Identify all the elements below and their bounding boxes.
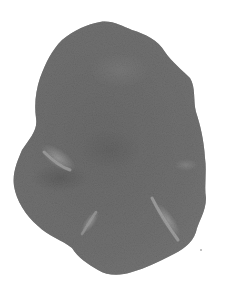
- specimen-image: [0, 0, 225, 281]
- speck: [200, 249, 202, 251]
